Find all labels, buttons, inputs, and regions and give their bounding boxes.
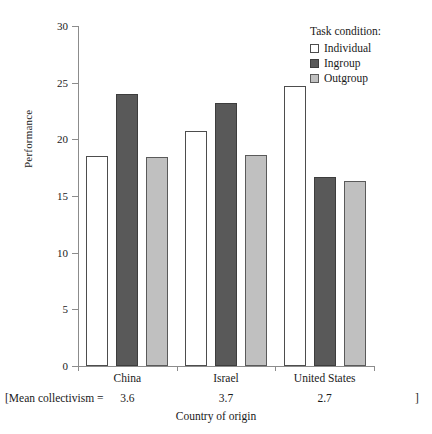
legend-swatch-ingroup-icon bbox=[310, 59, 319, 68]
legend-item-individual: Individual bbox=[310, 41, 381, 56]
legend-item-ingroup: Ingroup bbox=[310, 56, 381, 71]
x-tick-mark bbox=[78, 366, 79, 371]
x-tick-mark bbox=[177, 366, 178, 371]
y-axis-line bbox=[78, 26, 79, 367]
bar-united-states-ingroup bbox=[314, 177, 336, 366]
y-tick-label: 15 bbox=[46, 191, 68, 202]
y-tick-mark bbox=[72, 253, 78, 254]
mean-collectivism-value: 3.6 bbox=[78, 392, 177, 404]
bar-israel-outgroup bbox=[245, 155, 267, 366]
bar-china-ingroup bbox=[116, 94, 138, 366]
y-tick-label: 20 bbox=[46, 134, 68, 145]
bar-china-individual bbox=[86, 156, 108, 366]
legend-item-outgroup: Outgroup bbox=[310, 71, 381, 86]
bar-united-states-individual bbox=[284, 86, 306, 366]
mean-collectivism-value: 3.7 bbox=[177, 392, 276, 404]
y-tick-label: 30 bbox=[46, 21, 68, 32]
legend-swatch-individual-icon bbox=[310, 44, 319, 53]
group-label-china: China bbox=[78, 372, 177, 384]
group-label-united-states: United States bbox=[275, 372, 374, 384]
y-tick-label: 10 bbox=[46, 248, 68, 259]
x-axis-line bbox=[78, 366, 374, 367]
legend-item-label: Ingroup bbox=[324, 56, 360, 71]
y-tick-mark bbox=[72, 26, 78, 27]
mean-collectivism-value: 2.7 bbox=[275, 392, 374, 404]
x-axis-title: Country of origin bbox=[0, 410, 432, 422]
y-tick-mark bbox=[72, 196, 78, 197]
y-tick-mark bbox=[72, 309, 78, 310]
y-tick-label: 25 bbox=[46, 78, 68, 89]
y-axis-title: Performance bbox=[22, 110, 34, 168]
bar-israel-ingroup bbox=[215, 103, 237, 366]
performance-bar-chart: 051015202530 Performance ChinaIsraelUnit… bbox=[0, 0, 432, 434]
y-tick-mark bbox=[72, 83, 78, 84]
legend-items: IndividualIngroupOutgroup bbox=[310, 41, 381, 86]
x-tick-mark bbox=[275, 366, 276, 371]
mean-collectivism-suffix: ] bbox=[415, 392, 419, 404]
legend-item-label: Outgroup bbox=[324, 71, 368, 86]
legend-swatch-outgroup-icon bbox=[310, 74, 319, 83]
y-tick-mark bbox=[72, 139, 78, 140]
group-label-israel: Israel bbox=[177, 372, 276, 384]
legend-title: Task condition: bbox=[310, 24, 381, 39]
bar-united-states-outgroup bbox=[344, 181, 366, 366]
bar-china-outgroup bbox=[146, 157, 168, 366]
legend-item-label: Individual bbox=[324, 41, 371, 56]
mean-collectivism-annotation: [Mean collectivism = ] 3.63.72.7 bbox=[0, 392, 432, 406]
bar-israel-individual bbox=[185, 131, 207, 366]
y-tick-label: 5 bbox=[46, 304, 68, 315]
y-tick-label: 0 bbox=[46, 361, 68, 372]
legend: Task condition: IndividualIngroupOutgrou… bbox=[310, 24, 381, 86]
x-tick-mark bbox=[374, 366, 375, 371]
